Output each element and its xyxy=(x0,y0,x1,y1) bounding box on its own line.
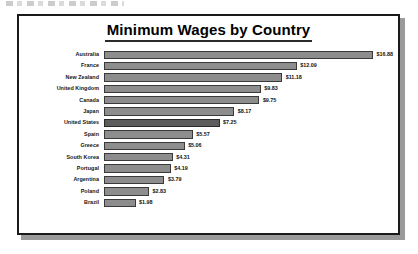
bar-category-label: Argentina xyxy=(23,177,104,182)
bar-value-label: $12.09 xyxy=(297,63,317,68)
bar-value-label: $9.83 xyxy=(261,86,278,91)
bar-category-label: Australia xyxy=(23,52,104,57)
bar-category-label: Portugal xyxy=(23,166,104,171)
bar-row: Brazil$1.98 xyxy=(23,197,398,208)
bar-category-label: Canada xyxy=(23,98,104,103)
bar-fill xyxy=(104,164,171,172)
bar-value-label: $5.06 xyxy=(185,143,202,148)
bar-track: $11.18 xyxy=(104,73,398,81)
chart-plot-area: Australia$16.88France$12.09New Zealand$1… xyxy=(19,49,398,208)
bar-category-label: Poland xyxy=(23,189,104,194)
bar-value-label: $4.31 xyxy=(173,155,190,160)
bar-category-label: France xyxy=(23,63,104,68)
bar-fill xyxy=(104,176,164,184)
bar-row: Canada$9.75 xyxy=(23,95,398,106)
bar-row: Poland$2.83 xyxy=(23,186,398,197)
chart-title-container: Minimum Wages by Country xyxy=(19,16,398,42)
bar-fill xyxy=(104,142,185,150)
bar-row: New Zealand$11.18 xyxy=(23,72,398,83)
bar-row: Argentina$3.79 xyxy=(23,174,398,185)
page-title: Minimum Wages by Country xyxy=(105,21,313,42)
bar-row: Portugal$4.19 xyxy=(23,163,398,174)
bar-row: United States$7.25 xyxy=(23,117,398,128)
bar-track: $7.25 xyxy=(104,119,398,127)
bar-category-label: United Kingdom xyxy=(23,86,104,91)
bar-fill xyxy=(104,153,173,161)
bar-row: South Korea$4.31 xyxy=(23,152,398,163)
bar-value-label: $8.17 xyxy=(234,109,251,114)
bar-track: $3.79 xyxy=(104,176,398,184)
bar-track: $9.75 xyxy=(104,96,398,104)
bar-category-label: Brazil xyxy=(23,200,104,205)
bar-fill xyxy=(104,199,136,207)
bar-row: Australia$16.88 xyxy=(23,49,398,60)
bar-category-label: United States xyxy=(23,120,104,125)
bar-fill xyxy=(104,119,220,127)
bar-value-label: $4.19 xyxy=(171,166,188,171)
bar-fill xyxy=(104,73,282,81)
bar-fill xyxy=(104,85,261,93)
bar-track: $4.31 xyxy=(104,153,398,161)
bar-track: $5.57 xyxy=(104,130,398,138)
bar-row: United Kingdom$9.83 xyxy=(23,83,398,94)
bar-row: France$12.09 xyxy=(23,60,398,71)
bar-track: $9.83 xyxy=(104,85,398,93)
bar-track: $5.06 xyxy=(104,142,398,150)
bar-fill xyxy=(104,96,259,104)
bar-track: $1.98 xyxy=(104,199,398,207)
bar-value-label: $5.57 xyxy=(193,132,210,137)
bar-category-label: South Korea xyxy=(23,155,104,160)
bar-track: $12.09 xyxy=(104,62,398,70)
bar-value-label: $11.18 xyxy=(282,75,302,80)
bar-category-label: Japan xyxy=(23,109,104,114)
bar-category-label: Greece xyxy=(23,143,104,148)
bar-fill xyxy=(104,130,193,138)
bar-track: $8.17 xyxy=(104,107,398,115)
bar-fill xyxy=(104,187,149,195)
bar-fill xyxy=(104,51,373,59)
bar-value-label: $9.75 xyxy=(259,98,276,103)
bar-value-label: $2.83 xyxy=(149,189,166,194)
bar-value-label: $16.88 xyxy=(373,52,393,57)
bar-category-label: New Zealand xyxy=(23,75,104,80)
bar-track: $2.83 xyxy=(104,187,398,195)
bar-row: Spain$5.57 xyxy=(23,129,398,140)
bar-fill xyxy=(104,62,297,70)
bar-track: $4.19 xyxy=(104,164,398,172)
chart-frame: Minimum Wages by Country Australia$16.88… xyxy=(17,14,400,235)
bar-row: Greece$5.06 xyxy=(23,140,398,151)
bar-track: $16.88 xyxy=(104,51,398,59)
scan-edge-artifact xyxy=(6,1,124,6)
bar-category-label: Spain xyxy=(23,132,104,137)
bar-row: Japan$8.17 xyxy=(23,106,398,117)
bar-fill xyxy=(104,107,234,115)
bar-value-label: $1.98 xyxy=(136,200,153,205)
bar-value-label: $7.25 xyxy=(220,120,237,125)
bar-value-label: $3.79 xyxy=(164,177,181,182)
